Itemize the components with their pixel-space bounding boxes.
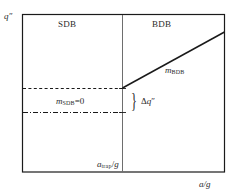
- delta-q-label: Δq″: [141, 97, 155, 106]
- slope-sdb-subscript: SDB: [63, 100, 75, 106]
- y-axis-label: q″: [4, 12, 12, 21]
- delta-q-prime: ″: [151, 96, 155, 106]
- a-trap-subscript: trap: [102, 163, 112, 169]
- slope-label-sdb-zero: mSDB=0: [56, 97, 84, 106]
- figure-root: } q″ a/g SDB BDB mBDB mSDB=0 Δq″ atrap/g: [0, 0, 239, 196]
- region-label-bdb: BDB: [152, 20, 171, 29]
- slope-sdb-value: 0: [80, 96, 85, 106]
- slope-bdb-subscript: BDB: [172, 69, 185, 75]
- region-label-sdb: SDB: [58, 20, 76, 29]
- delta-q-brace: }: [131, 90, 137, 110]
- a-trap-denominator: g: [114, 159, 119, 169]
- x-axis-label: a/g: [199, 180, 211, 189]
- transition-point-label: atrap/g: [97, 160, 119, 169]
- plot-frame: [23, 15, 225, 173]
- plot-canvas: [0, 0, 239, 196]
- slope-label-bdb: mBDB: [165, 66, 184, 75]
